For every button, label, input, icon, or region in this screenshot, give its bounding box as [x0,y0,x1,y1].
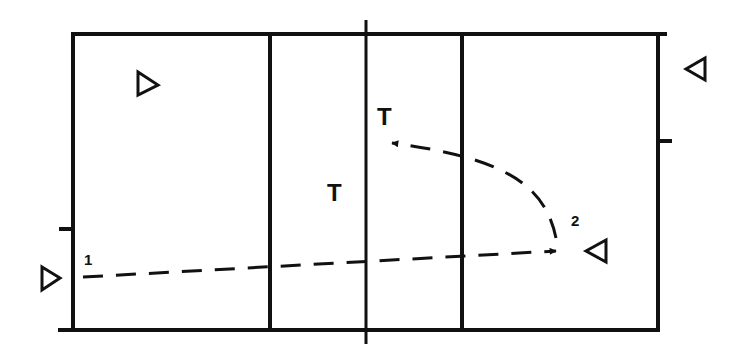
t-upper-label: T [377,105,392,129]
player-right-facing-icon [42,267,60,290]
position-2-label: 2 [571,213,579,228]
player-left-facing-icon [586,240,606,262]
player-right-facing-icon [138,72,158,95]
t-lower-label: T [327,181,342,205]
court-diagram: T T 1 2 [0,0,745,361]
player-left-facing-icon [686,58,705,80]
court-lines [0,0,745,361]
pass-2-to-t-path [392,143,556,238]
position-1-label: 1 [84,252,92,267]
pass-1-to-2-path [83,251,556,277]
